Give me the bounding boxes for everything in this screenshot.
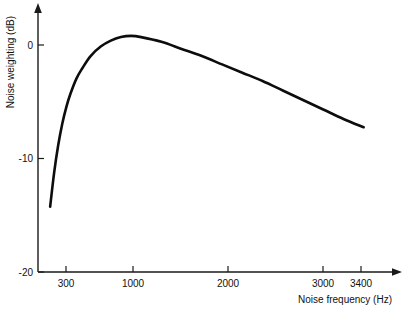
y-tick-marks [38,45,44,272]
x-axis-title: Noise frequency (Hz) [298,294,392,305]
y-tick-label-0: 0 [27,40,33,51]
x-tick-label-2000: 2000 [217,278,240,289]
x-axis-arrow-icon [392,268,402,276]
y-tick-label-minus10: -10 [19,153,34,164]
y-tick-label-minus20: -20 [19,267,34,278]
x-tick-label-3400: 3400 [350,278,373,289]
x-tick-label-1000: 1000 [122,278,145,289]
x-tick-label-300: 300 [58,278,75,289]
noise-weighting-chart: 0 -10 -20 300 1000 2000 3000 3400 Noise … [0,0,413,312]
x-tick-marks [66,266,361,272]
chart-figure: 0 -10 -20 300 1000 2000 3000 3400 Noise … [0,0,413,312]
y-axis-title: Noise weighting (dB) [5,16,16,108]
x-tick-label-3000: 3000 [312,278,335,289]
y-axis-arrow-icon [34,3,42,13]
y-axis [34,3,42,272]
noise-weighting-curve [50,36,364,207]
x-axis [38,268,402,276]
